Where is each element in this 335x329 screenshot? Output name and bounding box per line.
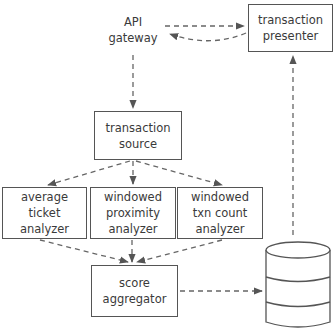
api-gateway-label-1: API	[124, 14, 142, 30]
api-gateway-node: API gateway	[98, 10, 168, 50]
transaction-source-node: transaction source	[94, 111, 182, 160]
transaction-source-label-1: transaction	[106, 120, 171, 136]
windowed-proximity-analyzer-node: windowed proximity analyzer	[90, 187, 176, 239]
windowed-proximity-label-3: analyzer	[108, 221, 157, 237]
windowed-txn-count-analyzer-node: windowed txn count analyzer	[177, 187, 263, 239]
windowed-proximity-label-1: windowed	[104, 189, 162, 205]
average-ticket-label-3: analyzer	[20, 221, 69, 237]
transaction-presenter-label-1: transaction	[258, 12, 323, 28]
windowed-txn-count-label-2: txn count	[193, 205, 248, 221]
edge-source-to-average	[48, 161, 130, 185]
transaction-presenter-node: transaction presenter	[248, 4, 333, 52]
transaction-presenter-label-2: presenter	[263, 28, 319, 44]
edge-source-to-txncount	[136, 161, 222, 185]
edge-presenter-to-gateway	[170, 33, 246, 41]
windowed-txn-count-label-3: analyzer	[195, 221, 244, 237]
average-ticket-label-1: average	[21, 189, 68, 205]
average-ticket-label-2: ticket	[29, 205, 61, 221]
score-aggregator-node: score aggregator	[91, 265, 178, 317]
average-ticket-analyzer-node: average ticket analyzer	[2, 187, 87, 239]
windowed-proximity-label-2: proximity	[106, 205, 160, 221]
database-icon	[266, 242, 330, 327]
windowed-txn-count-label-1: windowed	[191, 189, 249, 205]
transaction-source-label-2: source	[119, 136, 157, 152]
api-gateway-label-2: gateway	[108, 30, 157, 46]
score-aggregator-label-2: aggregator	[103, 291, 167, 307]
edge-txncount-to-score	[137, 240, 222, 262]
edge-average-to-score	[40, 240, 128, 262]
score-aggregator-label-1: score	[119, 275, 150, 291]
architecture-diagram: API gateway transaction presenter transa…	[0, 0, 335, 329]
